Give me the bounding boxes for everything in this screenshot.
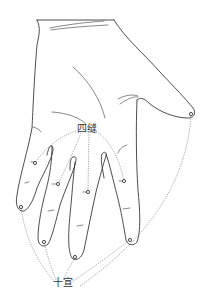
shixuan-point-middle [73, 255, 76, 258]
shixuan-point-thumb [189, 112, 192, 115]
shixuan-label: 十宣 [53, 278, 73, 288]
sifeng-point-index [122, 179, 125, 182]
sifeng-point-little [33, 161, 36, 164]
shixuan-point-index [128, 238, 131, 241]
hand-acupoint-diagram: 四缝 十宣 [0, 0, 211, 307]
sifeng-point-middle [86, 190, 89, 193]
sifeng-point-ring [56, 182, 59, 185]
shixuan-point-ring [42, 240, 45, 243]
shixuan-point-little [19, 205, 22, 208]
shixuan-leaders [21, 114, 191, 286]
shixuan-points [19, 112, 192, 258]
hand-illustration [0, 0, 211, 307]
sifeng-leaders [35, 131, 124, 192]
sifeng-label: 四缝 [77, 124, 97, 134]
